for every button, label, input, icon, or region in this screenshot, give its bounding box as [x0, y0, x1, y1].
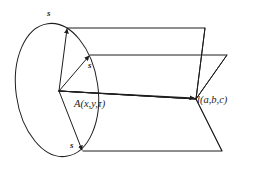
geometry-figure: s s s A(x,y,τ) l(a,b,c): [0, 0, 255, 181]
label-s-middle: s: [88, 61, 92, 70]
vector-a-to-l: [59, 91, 194, 98]
label-point-l: l(a,b,c): [197, 95, 227, 106]
diagram-canvas: [0, 0, 255, 181]
right-vertical-edge: [196, 28, 222, 151]
upper-plane: [59, 28, 205, 99]
label-point-a: A(x,y,τ): [74, 99, 105, 110]
vector-s-middle: [59, 56, 89, 91]
ellipse-outline: [7, 18, 107, 162]
vector-s-top: [59, 29, 67, 91]
label-s-top: s: [47, 9, 51, 18]
label-s-bottom: s: [70, 141, 74, 150]
